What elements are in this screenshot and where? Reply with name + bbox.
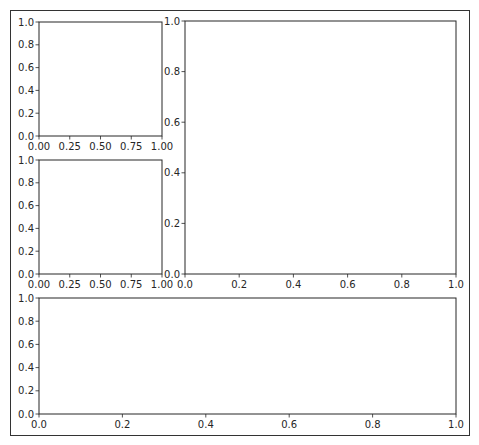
x-tick-label: 0.2 (231, 279, 247, 290)
x-tick-label: 0.75 (120, 279, 142, 290)
x-tick-label: 0.00 (28, 279, 50, 290)
y-tick-label: 0.0 (18, 131, 34, 142)
x-tick-label: 0.4 (198, 419, 214, 430)
y-tick-label: 0.0 (164, 269, 180, 280)
ax-top-left: 0.000.250.500.751.000.00.20.40.60.81.0 (18, 17, 173, 153)
y-tick-label: 0.4 (18, 362, 34, 373)
x-tick-label: 0.8 (365, 419, 381, 430)
y-tick-label: 0.8 (18, 39, 34, 50)
y-tick-label: 0.4 (18, 85, 34, 96)
x-tick-label: 0.6 (281, 419, 297, 430)
x-tick-label: 0.0 (177, 279, 193, 290)
x-tick-label: 1.00 (151, 279, 173, 290)
axes-spines (39, 298, 456, 414)
y-tick-label: 0.6 (18, 339, 34, 350)
y-tick-label: 1.0 (18, 17, 34, 28)
y-tick-label: 1.0 (18, 155, 34, 166)
x-tick-label: 0.50 (89, 141, 111, 152)
y-tick-label: 0.4 (18, 223, 34, 234)
x-tick-label: 0.25 (59, 279, 81, 290)
x-tick-label: 0.8 (394, 279, 410, 290)
x-tick-label: 1.00 (151, 141, 173, 152)
x-tick-label: 0.75 (120, 141, 142, 152)
figure-canvas: 0.000.250.500.751.000.00.20.40.60.81.00.… (0, 0, 479, 445)
x-tick-label: 0.25 (59, 141, 81, 152)
y-tick-label: 0.6 (164, 117, 180, 128)
x-tick-label: 0.0 (31, 419, 47, 430)
x-tick-label: 1.0 (448, 419, 464, 430)
axes-spines (39, 22, 162, 136)
y-tick-label: 1.0 (164, 16, 180, 27)
ax-mid-left: 0.000.250.500.751.000.00.20.40.60.81.0 (18, 155, 173, 291)
y-tick-label: 0.4 (164, 167, 180, 178)
y-tick-label: 0.8 (18, 177, 34, 188)
axes-spines (185, 21, 456, 274)
ax-right-large: 0.00.20.40.60.81.00.00.20.40.60.81.0 (164, 16, 464, 291)
y-tick-label: 0.6 (18, 62, 34, 73)
x-tick-label: 0.00 (28, 141, 50, 152)
y-tick-label: 0.6 (18, 200, 34, 211)
axes-spines (39, 160, 162, 274)
y-tick-label: 0.8 (164, 66, 180, 77)
y-tick-label: 1.0 (18, 293, 34, 304)
x-tick-label: 0.4 (285, 279, 301, 290)
ax-bottom-wide: 0.00.20.40.60.81.00.00.20.40.60.81.0 (18, 293, 464, 431)
x-tick-label: 0.50 (89, 279, 111, 290)
y-tick-label: 0.2 (18, 108, 34, 119)
y-tick-label: 0.8 (18, 316, 34, 327)
x-tick-label: 0.6 (340, 279, 356, 290)
y-tick-label: 0.2 (18, 385, 34, 396)
y-tick-label: 0.2 (18, 246, 34, 257)
y-tick-label: 0.2 (164, 218, 180, 229)
x-tick-label: 0.2 (114, 419, 130, 430)
x-tick-label: 1.0 (448, 279, 464, 290)
y-tick-label: 0.0 (18, 269, 34, 280)
y-tick-label: 0.0 (18, 409, 34, 420)
